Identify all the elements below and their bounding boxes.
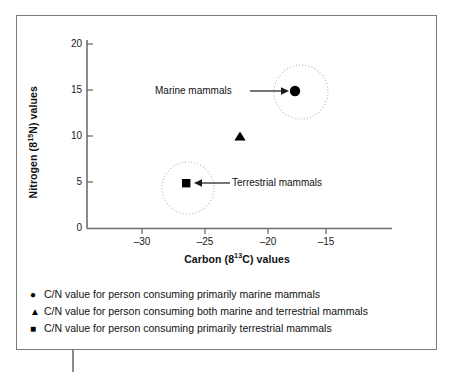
x-axis-ticks <box>142 229 326 235</box>
terrestrial-mammals-arrow <box>194 179 230 187</box>
y-tick-label-15: 15 <box>60 84 82 95</box>
y-axis-title-prefix: Nitrogen ( <box>27 148 39 199</box>
y-tick-label-20: 20 <box>60 38 82 49</box>
circle-marker-icon: ● <box>30 286 44 303</box>
legend-item-mixed: ▲ C/N value for person consuming both ma… <box>30 303 430 320</box>
data-point-marine-circle <box>290 86 300 96</box>
x-tick-label-minus30: ‒30 <box>125 236 159 247</box>
x-axis-title-prefix: Carbon ( <box>184 253 228 265</box>
data-point-terrestrial-square <box>182 179 190 187</box>
x-axis-title-superscript: 13 <box>234 252 242 260</box>
square-marker-icon: ■ <box>30 320 44 337</box>
y-tick-label-5: 5 <box>60 176 82 187</box>
y-axis-ticks <box>87 44 93 182</box>
y-axis-title-element: N <box>27 126 39 134</box>
marine-mammals-annotation-label: Marine mammals <box>155 85 232 96</box>
terrestrial-mammals-region <box>162 162 214 214</box>
x-tick-label-minus15: ‒15 <box>309 236 343 247</box>
x-tick-label-minus20: ‒20 <box>251 236 285 247</box>
triangle-marker-icon: ▲ <box>30 303 44 320</box>
y-axis-title-delta: 8 <box>27 142 39 148</box>
x-axis-title-element: C <box>242 253 250 265</box>
x-tick-label-minus25: ‒25 <box>188 236 222 247</box>
marine-mammals-arrow <box>250 87 289 95</box>
y-axis-title-suffix: ) values <box>27 86 39 126</box>
legend-item-label: C/N value for person consuming primarily… <box>44 286 320 303</box>
legend-item-terrestrial: ■ C/N value for person consuming primari… <box>30 320 430 337</box>
y-tick-label-0: 0 <box>60 222 82 233</box>
data-point-mixed-triangle <box>234 132 245 141</box>
terrestrial-mammals-annotation-label: Terrestrial mammals <box>232 177 322 188</box>
legend-item-label: C/N value for person consuming both mari… <box>44 303 368 320</box>
x-axis-title-suffix: ) values <box>250 253 290 265</box>
legend: ● C/N value for person consuming primari… <box>30 286 430 337</box>
y-axis-title-superscript: 15 <box>27 134 35 142</box>
x-axis-title: Carbon (813C) values <box>87 252 387 265</box>
legend-item-label: C/N value for person consuming primarily… <box>44 320 332 337</box>
y-axis-title: Nitrogen (815N) values <box>27 47 40 237</box>
legend-item-marine: ● C/N value for person consuming primari… <box>30 286 430 303</box>
y-tick-label-10: 10 <box>60 130 82 141</box>
